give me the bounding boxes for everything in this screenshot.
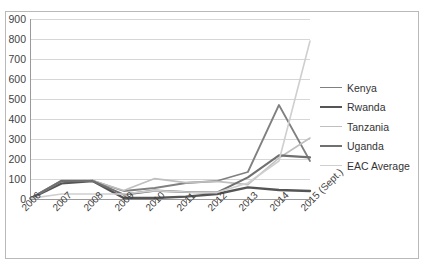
legend-line-swatch bbox=[320, 165, 342, 166]
legend-item-kenya[interactable]: Kenya bbox=[320, 78, 418, 98]
legend-line-swatch bbox=[320, 126, 342, 127]
chart-legend: KenyaRwandaTanzaniaUgandaEAC Average bbox=[320, 78, 418, 176]
legend-item-label: Kenya bbox=[347, 82, 377, 94]
legend-item-label: Tanzania bbox=[347, 121, 389, 133]
y-axis-tick-label: 400 bbox=[0, 114, 26, 124]
y-axis-tick-label: 100 bbox=[0, 174, 26, 184]
y-axis-tick-label: 800 bbox=[0, 34, 26, 44]
legend-line-swatch bbox=[320, 87, 342, 88]
legend-item-eac-average[interactable]: EAC Average bbox=[320, 156, 418, 176]
legend-item-label: Uganda bbox=[347, 140, 384, 152]
y-axis-tick-label: 900 bbox=[0, 14, 26, 24]
y-axis-tick-label: 500 bbox=[0, 94, 26, 104]
legend-line-swatch bbox=[320, 106, 342, 108]
legend-item-rwanda[interactable]: Rwanda bbox=[320, 98, 418, 118]
y-axis-tick-label: 200 bbox=[0, 154, 26, 164]
y-axis-tick-label: 600 bbox=[0, 74, 26, 84]
legend-item-tanzania[interactable]: Tanzania bbox=[320, 117, 418, 137]
legend-line-swatch bbox=[320, 145, 342, 147]
y-axis-tick-label: 700 bbox=[0, 54, 26, 64]
legend-item-label: Rwanda bbox=[347, 101, 386, 113]
legend-item-uganda[interactable]: Uganda bbox=[320, 137, 418, 157]
legend-item-label: EAC Average bbox=[347, 160, 410, 172]
y-axis-tick-label: 300 bbox=[0, 134, 26, 144]
